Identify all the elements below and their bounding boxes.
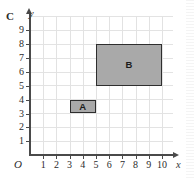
y-tick-mark [26,30,29,31]
shape-label: A [79,101,86,112]
y-tick-label: 9 [12,25,24,35]
x-tick-label: 4 [76,160,90,170]
shape-rectangle-a: A [70,100,96,114]
y-tick-mark [26,100,29,101]
x-axis-label: x [176,159,181,170]
y-tick-label: 4 [12,95,24,105]
x-tick-label: 10 [155,160,169,170]
scan-edge-artifact [186,0,194,179]
y-tick-label: 1 [12,136,24,146]
y-tick-mark [26,72,29,73]
y-tick-mark [26,114,29,115]
x-tick-label: 7 [115,160,129,170]
x-axis-line [30,154,175,156]
y-axis-line [29,14,31,156]
x-tick-label: 5 [89,160,103,170]
x-tick-label: 2 [49,160,63,170]
y-tick-mark [26,86,29,87]
shape-label: B [126,59,133,70]
y-tick-label: 5 [12,81,24,91]
y-tick-label: 6 [12,67,24,77]
x-axis-arrow-icon [173,152,179,158]
x-tick-label: 6 [102,160,116,170]
y-tick-mark [26,127,29,128]
x-tick-label: 8 [129,160,143,170]
y-axis-label: y [29,8,34,19]
x-tick-label: 1 [36,160,50,170]
figure-label: C [6,10,14,22]
x-tick-label: 9 [142,160,156,170]
y-tick-label: 2 [12,122,24,132]
origin-label: O [14,158,22,170]
y-tick-mark [26,141,29,142]
shape-rectangle-b: B [96,44,162,86]
y-tick-label: 8 [12,39,24,49]
y-tick-mark [26,44,29,45]
y-tick-label: 7 [12,53,24,63]
y-tick-mark [26,58,29,59]
y-tick-label: 3 [12,109,24,119]
coordinate-grid-figure: C y x O 12345678910 123456789 AB [0,0,194,179]
x-tick-label: 3 [63,160,77,170]
